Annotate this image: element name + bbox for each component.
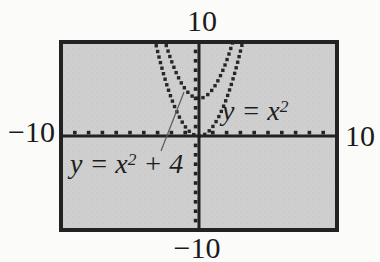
- curve-label-text: y = x: [222, 95, 280, 126]
- curve-label-text: y = x: [70, 148, 128, 179]
- window-ymin-label: −10: [0, 233, 380, 262]
- plot-canvas: [0, 0, 380, 262]
- curve-label-y-equals-x-squared-plus-4: y = x2 + 4: [70, 150, 183, 178]
- calculator-graph-figure: 10 −10 −10 10 y = x2 y = x2 + 4: [0, 0, 380, 262]
- window-xmin-label: −10: [0, 117, 55, 147]
- curve-label-exponent: 2: [280, 97, 289, 116]
- curve-label-y-equals-x-squared: y = x2: [222, 97, 288, 125]
- window-ymax-label: 10: [0, 6, 380, 36]
- curve-label-suffix: + 4: [136, 148, 183, 179]
- window-xmax-label: 10: [345, 121, 375, 151]
